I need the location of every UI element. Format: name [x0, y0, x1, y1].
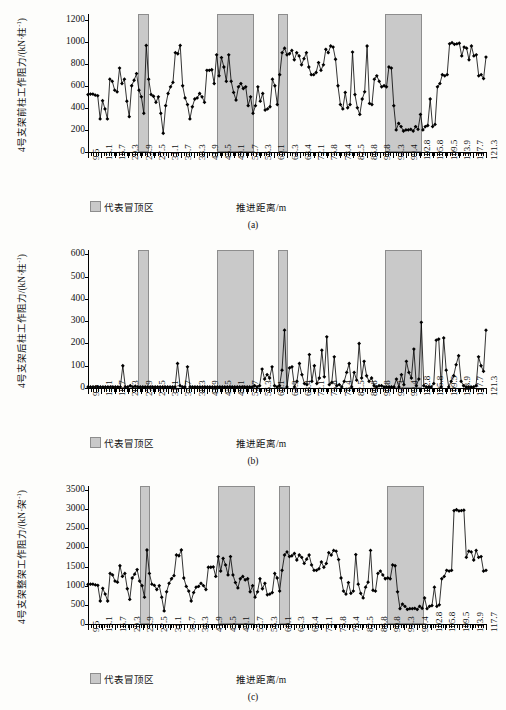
- x-axis-tick-label: 117.7: [490, 612, 499, 632]
- data-point-marker: [442, 336, 446, 340]
- data-point-marker: [229, 555, 233, 559]
- x-axis-tick-label: 9.5: [92, 621, 101, 632]
- x-axis-tick-label: 102.8: [435, 612, 444, 632]
- data-point-marker: [258, 577, 262, 581]
- data-point-marker: [280, 568, 284, 572]
- x-axis-tick-label: 109.5: [450, 376, 459, 396]
- x-axis-tick-label: 13.1: [105, 616, 114, 632]
- x-axis-tick-label: 64.3: [291, 380, 300, 396]
- data-point-marker: [236, 586, 240, 590]
- data-point-marker: [101, 99, 105, 103]
- data-point-marker: [181, 84, 185, 88]
- data-point-marker: [477, 355, 481, 359]
- legend-swatch-roof-fall-zone: [90, 437, 101, 448]
- data-point-marker: [275, 103, 279, 107]
- data-point-marker: [332, 355, 336, 359]
- data-point-marker: [305, 51, 309, 55]
- x-axis-tick-label: 121.3: [490, 376, 499, 396]
- x-axis-tick-label: 109.5: [450, 140, 459, 160]
- x-axis-tick-label: 34.7: [184, 380, 193, 396]
- data-point-marker: [137, 88, 141, 92]
- data-point-marker: [248, 590, 252, 594]
- x-axis-tick-label: 13.1: [105, 380, 114, 396]
- chart-panel-c: 4号支架整架工作阻力/(kN·架-1)050010001500200025003…: [0, 472, 506, 708]
- data-point-marker: [106, 117, 110, 121]
- x-axis-tick-label: 68.4: [304, 144, 313, 160]
- x-axis-tick-label: 16.7: [119, 616, 128, 632]
- data-point-marker: [253, 595, 257, 599]
- x-axis-tick-label: 75.8: [330, 144, 339, 160]
- legend-label-roof-fall-zone: 代表冒顶区: [104, 439, 154, 449]
- data-point-marker: [121, 364, 125, 368]
- legend: 代表冒顶区: [90, 672, 154, 686]
- x-axis-tick-label: 102.8: [423, 140, 432, 160]
- data-point-marker: [280, 51, 284, 55]
- data-point-marker: [186, 365, 190, 369]
- data-point-marker: [125, 99, 129, 103]
- x-axis-tick-label: 20.3: [131, 380, 140, 396]
- data-point-marker: [356, 582, 360, 586]
- legend-swatch-roof-fall-zone: [90, 673, 101, 684]
- x-axis-tick-label: 45.5: [224, 380, 233, 396]
- data-point-marker: [298, 362, 302, 366]
- data-point-marker: [341, 107, 345, 111]
- x-axis-tick-label: 20.3: [133, 616, 142, 632]
- data-point-marker: [322, 375, 326, 379]
- x-axis-tick-label: 52.7: [251, 380, 260, 396]
- x-axis-tick-label: 56.3: [270, 616, 279, 632]
- data-point-marker: [169, 85, 173, 89]
- data-point-marker: [351, 50, 355, 54]
- data-point-marker: [166, 92, 170, 96]
- series-line: [88, 510, 486, 611]
- x-axis-tick-label: 9.5: [92, 385, 101, 396]
- data-point-marker: [229, 79, 233, 83]
- data-point-marker: [144, 44, 148, 48]
- data-point-marker: [183, 96, 187, 100]
- data-point-marker: [178, 44, 182, 48]
- data-point-marker: [190, 105, 194, 109]
- data-point-marker: [139, 95, 143, 99]
- x-axis-tick-label: 31.1: [171, 144, 180, 160]
- data-point-marker: [224, 79, 228, 83]
- data-point-marker: [317, 61, 321, 65]
- x-axis-tick-label: 82.5: [357, 144, 366, 160]
- data-point-marker: [358, 113, 362, 117]
- data-point-marker: [98, 117, 102, 121]
- data-point-marker: [347, 362, 351, 366]
- x-axis-tick-label: 23.9: [145, 144, 154, 160]
- data-point-marker: [407, 371, 411, 375]
- data-point-marker: [232, 90, 236, 94]
- data-point-marker: [164, 104, 168, 108]
- data-point-marker: [339, 576, 343, 580]
- data-point-marker: [171, 81, 175, 85]
- data-point-marker: [319, 68, 323, 72]
- data-point-marker: [312, 364, 316, 368]
- x-axis-tick-label: 86.8: [370, 380, 379, 396]
- data-point-marker: [165, 590, 169, 594]
- data-point-marker: [310, 563, 314, 567]
- chart-panel-a: 4号支架前柱工作阻力/(kN·柱-1)020040060080010001200…: [0, 0, 506, 236]
- panel-caption: (a): [0, 220, 506, 230]
- data-point-marker: [212, 82, 216, 86]
- data-point-marker: [188, 117, 192, 121]
- x-axis-tick-label: 38.3: [198, 144, 207, 160]
- data-point-marker: [215, 53, 219, 57]
- data-point-marker: [226, 573, 230, 577]
- data-point-marker: [300, 373, 304, 377]
- x-axis-tick-label: 31.1: [171, 380, 180, 396]
- data-point-marker: [189, 599, 193, 603]
- data-point-marker: [347, 581, 351, 585]
- data-point-marker: [101, 586, 105, 590]
- data-point-marker: [234, 98, 238, 102]
- data-point-marker: [246, 104, 250, 108]
- data-point-marker: [118, 564, 122, 568]
- data-point-marker: [337, 558, 341, 562]
- data-point-marker: [338, 103, 342, 107]
- x-axis-tick-label: 90.8: [393, 616, 402, 632]
- data-point-marker: [254, 104, 258, 108]
- data-point-marker: [325, 335, 329, 339]
- data-point-marker: [484, 55, 488, 59]
- data-point-marker: [454, 363, 458, 367]
- data-point-marker: [234, 581, 238, 585]
- legend-label-roof-fall-zone: 代表冒顶区: [104, 203, 154, 213]
